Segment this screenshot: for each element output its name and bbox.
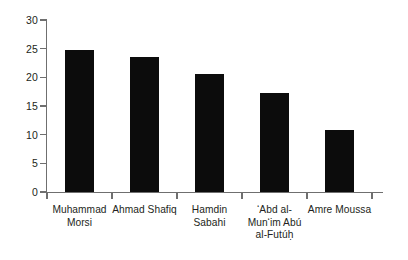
bar (325, 130, 355, 192)
plot-area (47, 20, 372, 192)
x-axis-tick (371, 193, 372, 199)
y-axis-tick-label: 20 (2, 72, 38, 82)
x-axis-tick (241, 193, 242, 199)
x-axis-category-label: Ahmad Shafiq (112, 204, 177, 217)
y-axis-tick (40, 134, 46, 135)
x-axis-category-label: ‘Abd al- Mun‘im Abú al-Futúḥ (242, 204, 307, 242)
bar (260, 93, 290, 192)
y-axis-tick (40, 163, 46, 164)
x-axis-category-label: Muhammad Morsi (47, 204, 112, 229)
y-axis-tick-label: 30 (2, 15, 38, 25)
x-axis-category-label: Amre Moussa (307, 204, 372, 217)
x-axis-tick (306, 193, 307, 199)
x-axis-tick (111, 193, 112, 199)
x-axis-line (46, 192, 383, 193)
bar (130, 57, 160, 192)
y-axis-tick (40, 105, 46, 106)
y-axis-tick-label: 10 (2, 130, 38, 140)
x-axis-category-label: Hamdin Sabahi (177, 204, 242, 229)
bar-chart: 051015202530 Muhammad MorsiAhmad ShafiqH… (0, 0, 408, 260)
y-axis-tick (40, 48, 46, 49)
y-axis-tick-label: 0 (2, 187, 38, 197)
y-axis-tick-label: 25 (2, 44, 38, 54)
y-axis-tick (40, 191, 46, 192)
bar (65, 50, 95, 192)
y-axis-tick-label: 15 (2, 101, 38, 111)
y-axis-tick-label: 5 (2, 158, 38, 168)
x-axis-tick (176, 193, 177, 199)
y-axis-tick (40, 19, 46, 20)
y-axis-tick (40, 77, 46, 78)
x-axis-tick (46, 193, 47, 199)
bar (195, 74, 225, 192)
